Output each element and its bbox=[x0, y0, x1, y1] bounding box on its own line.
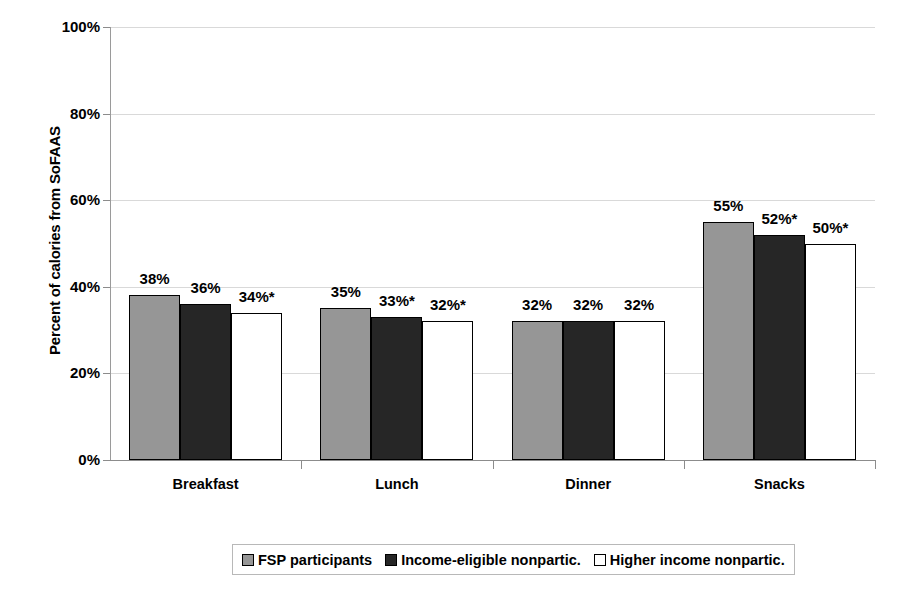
bar bbox=[320, 308, 371, 460]
legend-label: Income-eligible nonpartic. bbox=[401, 552, 581, 568]
bar-data-label: 38% bbox=[140, 270, 170, 287]
bar bbox=[805, 244, 856, 461]
bar-data-label: 32% bbox=[522, 296, 552, 313]
legend-swatch-icon bbox=[594, 554, 606, 566]
legend-item: Higher income nonpartic. bbox=[594, 552, 785, 568]
bar-data-label: 32%* bbox=[430, 296, 466, 313]
bar bbox=[231, 313, 282, 460]
bar bbox=[563, 321, 614, 460]
legend-item: Income-eligible nonpartic. bbox=[385, 552, 581, 568]
bar-data-label: 33%* bbox=[379, 292, 415, 309]
gridline bbox=[110, 200, 875, 201]
bar bbox=[754, 235, 805, 460]
y-axis-line bbox=[110, 27, 111, 461]
bar-data-label: 52%* bbox=[761, 210, 797, 227]
gridline bbox=[110, 114, 875, 115]
bar bbox=[512, 321, 563, 460]
y-axis-tick-label: 20% bbox=[34, 364, 100, 381]
y-axis-tick-label: 100% bbox=[34, 18, 100, 35]
legend-swatch-icon bbox=[385, 554, 397, 566]
bar-data-label: 34%* bbox=[239, 288, 275, 305]
legend-label: Higher income nonpartic. bbox=[610, 552, 785, 568]
x-axis-category-label: Snacks bbox=[754, 476, 805, 492]
x-axis-separator bbox=[493, 460, 494, 469]
bar-chart: Percent of calories from SoFAAS 100%80%6… bbox=[0, 0, 912, 604]
x-axis-category-label: Breakfast bbox=[173, 476, 239, 492]
bar bbox=[422, 321, 473, 460]
legend-label: FSP participants bbox=[258, 552, 372, 568]
x-axis-separator bbox=[875, 460, 876, 469]
bar bbox=[703, 222, 754, 460]
bar-data-label: 32% bbox=[624, 296, 654, 313]
bar bbox=[129, 295, 180, 460]
legend-item: FSP participants bbox=[242, 552, 372, 568]
chart-legend: FSP participantsIncome-eligible nonparti… bbox=[232, 544, 795, 575]
y-axis-tick-label: 0% bbox=[34, 451, 100, 468]
bar-data-label: 32% bbox=[573, 296, 603, 313]
y-axis-tick-label: 40% bbox=[34, 278, 100, 295]
y-axis-tick-labels: 100%80%60%40%20%0% bbox=[26, 0, 100, 604]
y-axis-tick-label: 60% bbox=[34, 191, 100, 208]
bar-data-label: 50%* bbox=[812, 219, 848, 236]
x-axis-separator bbox=[684, 460, 685, 469]
x-axis-category-label: Dinner bbox=[565, 476, 611, 492]
bar bbox=[614, 321, 665, 460]
bar-data-label: 35% bbox=[331, 283, 361, 300]
x-axis-separator bbox=[301, 460, 302, 469]
bar-data-label: 36% bbox=[191, 279, 221, 296]
gridline bbox=[110, 27, 875, 28]
y-axis-tick-label: 80% bbox=[34, 105, 100, 122]
legend-swatch-icon bbox=[242, 554, 254, 566]
bar bbox=[180, 304, 231, 460]
x-axis-category-label: Lunch bbox=[375, 476, 419, 492]
bar bbox=[371, 317, 422, 460]
bar-data-label: 55% bbox=[713, 197, 743, 214]
